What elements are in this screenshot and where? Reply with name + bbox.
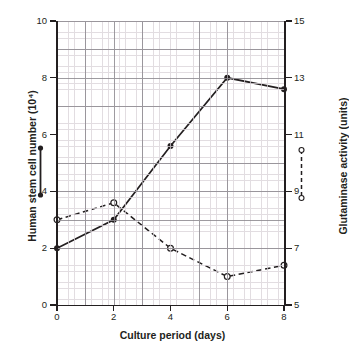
axis-left-tick	[50, 77, 56, 78]
axis-left-tick	[50, 304, 56, 305]
axis-left-tick	[50, 20, 56, 21]
axis-right-tick-label: 7	[294, 242, 318, 253]
axis-right-tick	[286, 134, 292, 135]
top-caption	[84, 0, 284, 10]
grid-major	[57, 21, 284, 305]
axis-right-tick-label: 5	[294, 299, 318, 310]
axis-bottom-tick-label: 4	[161, 311, 181, 322]
axis-right-tick	[286, 248, 292, 249]
axis-right-tick	[286, 77, 292, 78]
plot-area	[57, 21, 284, 305]
axis-bottom-tick-label: 2	[104, 311, 124, 322]
axis-right-tick-label: 15	[294, 15, 318, 26]
axis-right-tick-label: 13	[294, 72, 318, 83]
axis-left-tick	[50, 191, 56, 192]
axis-right-tick	[286, 191, 292, 192]
axis-bottom-tick-label: 6	[217, 311, 237, 322]
axis-right-tick-label: 11	[294, 129, 318, 140]
axis-left-tick-label: 0	[25, 299, 47, 310]
axis-right-title: Glutaminase activity (units)	[337, 71, 349, 261]
legend-dashed-line-marker	[297, 146, 306, 202]
axis-bottom-tick-label: 8	[274, 311, 294, 322]
axis-bottom-title: Culture period (days)	[60, 329, 285, 341]
axis-right-tick	[286, 20, 292, 21]
axis-bottom-tick-label: 0	[47, 311, 67, 322]
bottom-caption	[10, 349, 330, 357]
axis-left-tick-label: 10	[25, 15, 47, 26]
axis-left-tick	[50, 134, 56, 135]
axis-right-tick	[286, 304, 292, 305]
axis-left-line	[56, 21, 58, 306]
legend-solid-line-marker	[36, 144, 45, 199]
axis-left-tick	[50, 248, 56, 249]
axis-right-line	[284, 21, 286, 306]
